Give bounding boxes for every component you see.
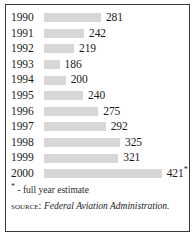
bar-value-label: 292 (106, 121, 128, 133)
bar-row: 1994200 (10, 72, 185, 88)
bar-value-number: 321 (123, 151, 140, 163)
bar (44, 29, 84, 38)
bar-value-label: 421* (162, 168, 188, 180)
chart-frame: 1990281199124219922191993186199420019952… (5, 4, 190, 232)
bar (44, 154, 118, 163)
bar-value-label: 275 (98, 106, 120, 118)
bar-track: 219 (44, 43, 185, 55)
source-label: Source: (11, 200, 42, 211)
chart-notes: * - full year estimate Source: Federal A… (10, 185, 185, 214)
bar-value-number: 186 (65, 58, 82, 70)
bar (44, 91, 83, 100)
bar (44, 169, 162, 178)
bar-value-number: 242 (89, 27, 106, 39)
bar-value-number: 275 (103, 105, 120, 117)
bar-value-label: 186 (60, 59, 82, 71)
bar-category-label: 1991 (10, 28, 44, 40)
bar-value-label: 200 (66, 74, 88, 86)
bar (44, 60, 60, 69)
bar (44, 107, 98, 116)
bar-row: 1991242 (10, 26, 185, 42)
bar-value-number: 219 (79, 42, 96, 54)
bar-track: 242 (44, 28, 185, 40)
bar-value-number: 281 (106, 11, 123, 23)
bar-category-label: 1997 (10, 121, 44, 133)
bar-value-label: 281 (101, 12, 123, 24)
footnote-text: - full year estimate (15, 185, 89, 195)
bar-row: 1990281 (10, 10, 185, 26)
bar-row: 1995240 (10, 88, 185, 104)
footnote: * - full year estimate (11, 185, 185, 197)
bar-value-label: 240 (83, 90, 105, 102)
bar-category-label: 1999 (10, 152, 44, 164)
bar-category-label: 1998 (10, 137, 44, 149)
bar-row: 1998325 (10, 135, 185, 151)
bar-row: 1999321 (10, 150, 185, 166)
bar-chart-rows: 1990281199124219922191993186199420019952… (10, 10, 185, 182)
source-value: Federal Aviation Administration. (44, 201, 170, 211)
bar-row: 2000421* (10, 166, 185, 182)
bar-value-number: 292 (111, 120, 128, 132)
bar-value-label: 325 (120, 137, 142, 149)
bar-category-label: 1995 (10, 90, 44, 102)
source-line: Source: Federal Aviation Administration. (11, 199, 185, 213)
chart-figure: 1990281199124219922191993186199420019952… (0, 0, 195, 236)
bar-row: 1993186 (10, 57, 185, 73)
bar-track: 321 (44, 152, 185, 164)
bar (44, 13, 101, 22)
bar-track: 292 (44, 121, 185, 133)
bar-value-number: 240 (88, 89, 105, 101)
bar-track: 325 (44, 137, 185, 149)
bar-track: 275 (44, 106, 185, 118)
bar-category-label: 2000 (10, 168, 44, 180)
bar (44, 122, 106, 131)
bar-track: 186 (44, 59, 185, 71)
bar-track: 421* (44, 168, 185, 180)
bar (44, 76, 66, 85)
bar-track: 200 (44, 74, 185, 86)
bar-track: 240 (44, 90, 185, 102)
bar-value-asterisk-icon: * (184, 165, 188, 174)
bar-value-number: 325 (125, 136, 142, 148)
bar-track: 281 (44, 12, 185, 24)
bar-category-label: 1992 (10, 43, 44, 55)
bar-value-number: 421 (167, 167, 184, 179)
bar-value-label: 219 (74, 43, 96, 55)
bar-category-label: 1993 (10, 59, 44, 71)
bar-value-label: 321 (118, 152, 140, 164)
bar-value-label: 242 (84, 28, 106, 40)
bar-category-label: 1996 (10, 106, 44, 118)
bar-category-label: 1994 (10, 74, 44, 86)
bar-row: 1992219 (10, 41, 185, 57)
bar-value-number: 200 (71, 73, 88, 85)
bar-category-label: 1990 (10, 12, 44, 24)
bar (44, 138, 120, 147)
bar-row: 1997292 (10, 119, 185, 135)
bar (44, 44, 74, 53)
bar-row: 1996275 (10, 104, 185, 120)
